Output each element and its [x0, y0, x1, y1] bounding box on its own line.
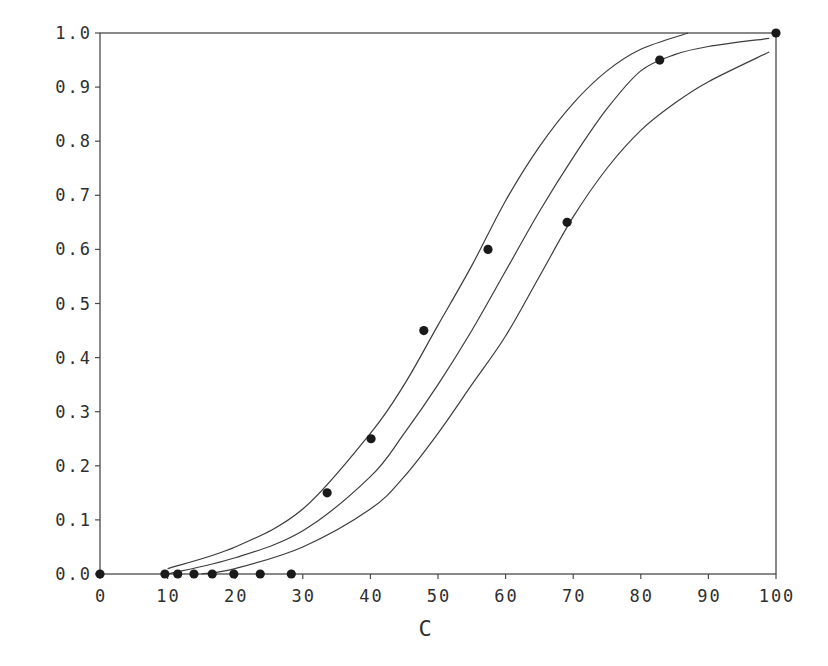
data-points	[95, 28, 780, 578]
data-point	[483, 245, 492, 254]
x-tick-label: 20	[224, 586, 248, 606]
y-tick-label: 0.5	[55, 294, 92, 314]
y-tick-label: 0.0	[55, 564, 92, 584]
x-tick-label: 0	[95, 586, 107, 606]
x-tick-label: 30	[292, 586, 316, 606]
x-tick-label: 50	[427, 586, 451, 606]
data-point	[771, 28, 780, 37]
data-point	[323, 488, 332, 497]
logistic-fit-chart: 0102030405060708090100 0.00.10.20.30.40.…	[0, 0, 828, 666]
fitted-curves	[168, 33, 770, 574]
data-point	[208, 569, 217, 578]
y-tick-label: 0.2	[55, 456, 92, 476]
plot-area-border	[100, 33, 776, 574]
lower-band-curve	[201, 52, 769, 574]
x-tick-label: 60	[494, 586, 518, 606]
y-axis-ticks: 0.00.10.20.30.40.50.60.70.80.91.0	[55, 23, 100, 584]
data-point	[655, 55, 664, 64]
data-point	[229, 569, 238, 578]
data-point	[563, 218, 572, 227]
y-tick-label: 0.6	[55, 239, 92, 259]
data-point	[95, 569, 104, 578]
x-tick-label: 40	[359, 586, 383, 606]
fitted-curve	[168, 38, 770, 574]
data-point	[256, 569, 265, 578]
upper-band-curve	[168, 33, 689, 569]
y-tick-label: 0.7	[55, 185, 92, 205]
x-tick-label: 70	[562, 586, 586, 606]
y-tick-label: 0.3	[55, 402, 92, 422]
x-tick-label: 10	[156, 586, 180, 606]
data-point	[160, 569, 169, 578]
plot-frame	[100, 33, 776, 574]
y-tick-label: 0.8	[55, 131, 92, 151]
data-point	[189, 569, 198, 578]
y-tick-label: 1.0	[55, 23, 92, 43]
data-point	[419, 326, 428, 335]
data-point	[287, 569, 296, 578]
x-tick-label: 90	[697, 586, 721, 606]
x-axis-ticks: 0102030405060708090100	[95, 574, 795, 606]
x-tick-label: 80	[630, 586, 654, 606]
y-tick-label: 0.9	[55, 77, 92, 97]
data-point	[366, 434, 375, 443]
y-tick-label: 0.1	[55, 510, 92, 530]
y-tick-label: 0.4	[55, 348, 92, 368]
x-axis-title: C	[418, 616, 431, 641]
x-tick-label: 100	[759, 586, 796, 606]
data-point	[173, 569, 182, 578]
